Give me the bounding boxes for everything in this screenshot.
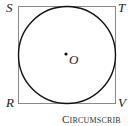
center-label-o: O — [69, 53, 78, 66]
vertex-label-t: T — [118, 1, 125, 14]
vertex-label-v: V — [118, 96, 126, 109]
geometry-canvas — [0, 0, 128, 126]
vertex-label-r: R — [6, 96, 14, 109]
vertex-label-s: S — [6, 1, 13, 14]
diagram-figure: S T R V O Circumscrib — [0, 0, 128, 126]
figure-caption: Circumscrib — [62, 114, 121, 125]
center-point-dot — [64, 52, 67, 55]
